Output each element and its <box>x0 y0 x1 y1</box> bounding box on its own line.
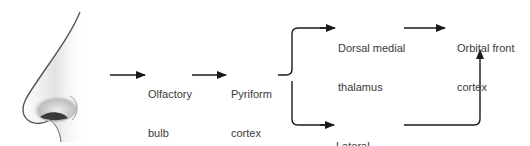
node-line: bulb <box>148 127 192 140</box>
node-line: Orbital front <box>457 42 514 55</box>
node-line: thalamus <box>338 81 405 94</box>
node-line: Lateral <box>336 140 405 146</box>
node-line: cortex <box>457 81 514 94</box>
node-orbital-front-cortex: Orbital front cortex <box>457 16 514 107</box>
node-olfactory-bulb: Olfactory bulb <box>148 62 192 146</box>
node-line: Olfactory <box>148 88 192 101</box>
node-lateral-hypothalamus: Lateral hypothalamus <box>336 114 405 146</box>
node-dorsal-medial-thalamus: Dorsal medial thalamus <box>338 16 405 107</box>
nose-illustration <box>23 12 88 142</box>
branch-brace <box>278 28 334 125</box>
node-pyriform-cortex: Pyriform cortex <box>231 62 272 146</box>
node-line: cortex <box>231 127 272 140</box>
node-line: Pyriform <box>231 88 272 101</box>
node-line: Dorsal medial <box>338 42 405 55</box>
